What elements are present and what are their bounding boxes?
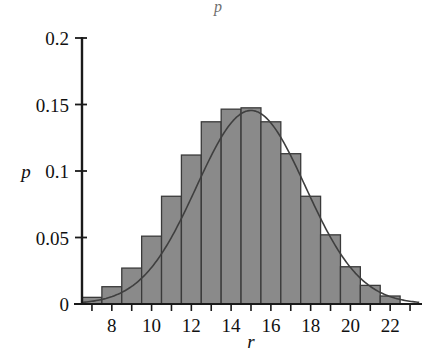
x-tick-label: 10: [142, 315, 161, 336]
x-tick-label: 14: [222, 315, 242, 336]
histogram-bar: [201, 122, 221, 304]
histogram-bar: [221, 109, 241, 304]
histogram-bar: [241, 108, 261, 304]
figure-container: 0.20.150.10.050810121416182022 r p p: [0, 0, 441, 352]
histogram-bar: [181, 155, 201, 304]
histogram-bar: [340, 267, 360, 304]
x-tick-label: 18: [301, 315, 320, 336]
histogram-bar: [281, 154, 301, 304]
histogram-bar: [142, 236, 162, 304]
x-tick-label: 20: [341, 315, 360, 336]
top-partial-glyph: p: [213, 0, 222, 16]
histogram-bar: [321, 235, 341, 304]
y-tick-label: 0.05: [36, 228, 69, 249]
histogram-bar: [360, 285, 380, 304]
y-tick-label: 0.15: [36, 95, 69, 116]
y-axis-label: p: [19, 161, 31, 182]
x-axis-label: r: [247, 331, 255, 352]
histogram-bar: [261, 122, 281, 304]
y-tick-label: 0: [60, 294, 70, 315]
probability-distribution-chart: 0.20.150.10.050810121416182022 r p p: [0, 0, 441, 352]
y-tick-label: 0.1: [45, 161, 69, 182]
histogram-bar: [102, 287, 122, 304]
x-tick-label: 8: [107, 315, 117, 336]
x-tick-label: 22: [381, 315, 400, 336]
x-tick-label: 12: [182, 315, 201, 336]
y-tick-label: 0.2: [45, 28, 69, 49]
x-tick-label: 16: [261, 315, 280, 336]
